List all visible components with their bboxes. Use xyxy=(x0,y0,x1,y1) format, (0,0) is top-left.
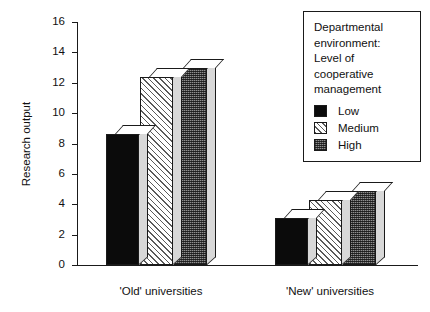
legend-swatch-icon xyxy=(314,122,327,134)
y-axis-tick xyxy=(72,83,77,84)
y-axis-tick xyxy=(72,113,77,114)
legend-title-line: cooperative xyxy=(314,67,410,83)
bar xyxy=(275,209,308,265)
legend-swatch-icon xyxy=(314,105,327,117)
legend-item[interactable]: High xyxy=(314,137,410,153)
bar-side-face xyxy=(342,192,351,265)
bar-front-face xyxy=(106,134,139,265)
legend-item[interactable]: Medium xyxy=(314,120,410,136)
x-axis-category-label: 'Old' universities xyxy=(101,285,221,297)
bar-side-face xyxy=(173,69,182,265)
y-axis-tick-label: 12 xyxy=(43,77,65,88)
x-axis-line xyxy=(77,265,418,266)
y-axis-tick xyxy=(72,265,77,266)
bar-top-face xyxy=(183,59,224,68)
y-axis-tick-label: 10 xyxy=(43,107,65,118)
y-axis-tick xyxy=(72,174,77,175)
legend-title-line: Level of xyxy=(314,51,410,67)
y-axis-tick-label: 2 xyxy=(43,229,65,240)
x-axis-category-label: 'New' universities xyxy=(270,285,390,297)
y-axis-tick xyxy=(72,52,77,53)
y-axis-tick xyxy=(72,204,77,205)
y-axis-line xyxy=(77,22,78,266)
y-axis-tick xyxy=(72,144,77,145)
bar-side-face xyxy=(376,183,385,265)
legend-title: Departmentalenvironment:Level ofcooperat… xyxy=(314,20,410,98)
legend-item-label: Medium xyxy=(338,122,379,134)
y-axis-tick-label: 16 xyxy=(43,16,65,27)
y-axis-tick-label: 4 xyxy=(43,198,65,209)
bar-top-face xyxy=(352,182,393,191)
y-axis-tick-label: 14 xyxy=(43,46,65,57)
legend-items: LowMediumHigh xyxy=(314,103,410,153)
legend-title-line: management xyxy=(314,82,410,98)
legend-item-label: High xyxy=(338,139,362,151)
chart-root: Research output 0246810121416'Old' unive… xyxy=(0,0,430,312)
bar-front-face xyxy=(275,218,308,265)
y-axis-tick xyxy=(72,22,77,23)
y-axis-tick-label: 0 xyxy=(43,259,65,270)
legend-title-line: Departmental xyxy=(314,20,410,36)
y-axis-tick-label: 6 xyxy=(43,168,65,179)
legend: Departmentalenvironment:Level ofcooperat… xyxy=(303,11,421,162)
legend-item[interactable]: Low xyxy=(314,103,410,119)
legend-title-line: environment: xyxy=(314,36,410,52)
bar-side-face xyxy=(207,60,216,265)
legend-item-label: Low xyxy=(338,105,359,117)
y-axis-tick xyxy=(72,235,77,236)
bar xyxy=(106,125,139,265)
bar-side-face xyxy=(308,210,317,265)
bar-side-face xyxy=(139,126,148,265)
legend-swatch-icon xyxy=(314,139,327,151)
y-axis-tick-label: 8 xyxy=(43,138,65,149)
